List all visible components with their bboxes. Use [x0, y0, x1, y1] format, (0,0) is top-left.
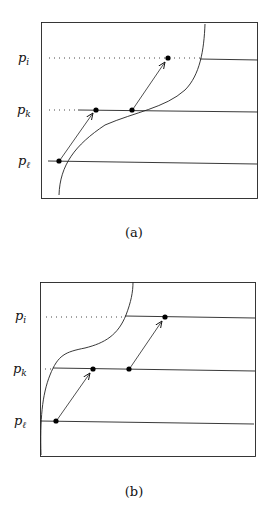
p-k-line [53, 368, 255, 371]
arrow-1 [60, 113, 93, 160]
point [129, 107, 134, 112]
point [90, 366, 95, 371]
label-p-l: pℓ [14, 413, 26, 430]
figure: pi pk pℓ (a) pi pk pℓ (b) [0, 0, 268, 519]
p-l-line [48, 161, 257, 164]
p-l-line [40, 421, 254, 424]
point [126, 366, 131, 371]
arrow-2 [133, 62, 165, 109]
panel-b: pi pk pℓ (b) [13, 282, 256, 499]
label-p-k: pk [17, 102, 31, 119]
p-k-line [78, 110, 258, 112]
p-i-line [125, 316, 255, 318]
caption-a: (a) [125, 225, 143, 240]
point [162, 314, 167, 319]
panel-a: pi pk pℓ (a) [17, 23, 258, 241]
label-p-i: pi [15, 308, 26, 325]
arrow-2 [130, 321, 162, 368]
label-p-i: pi [18, 50, 29, 67]
point [56, 158, 61, 163]
caption-b: (b) [125, 484, 143, 499]
label-p-k: pk [13, 361, 27, 378]
point [165, 55, 170, 60]
arrow-1 [57, 373, 90, 420]
point [53, 418, 58, 423]
label-p-l: pℓ [18, 153, 30, 170]
p-i-line [200, 59, 258, 60]
point [93, 107, 98, 112]
